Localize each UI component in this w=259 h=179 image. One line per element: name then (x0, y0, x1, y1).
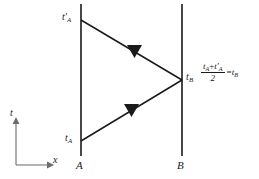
t-axis-arrowhead (13, 117, 20, 124)
formula-right-side: =tB (227, 68, 238, 77)
synchronization-formula: tA+t′A 2 =tB (201, 62, 238, 83)
formula-numerator: tA+t′A (201, 62, 225, 72)
x-axis-label: x (53, 155, 57, 165)
event-label-reception: t′A (62, 12, 71, 22)
formula-denominator: 2 (209, 73, 218, 83)
diagram-canvas (0, 0, 259, 179)
formula-fraction: tA+t′A 2 (201, 62, 225, 83)
spacetime-diagram: t′A tA tB A B t x tA+t′A 2 =tB (0, 0, 259, 179)
event-label-emission: tA (65, 133, 72, 143)
worldline-label-A: A (76, 160, 83, 171)
returning-ray-arrowhead (127, 45, 142, 58)
outgoing-ray-arrowhead (124, 104, 139, 117)
event-label-reflection: tB (186, 72, 193, 82)
t-axis-label: t (10, 108, 13, 118)
worldline-label-B: B (177, 160, 184, 171)
